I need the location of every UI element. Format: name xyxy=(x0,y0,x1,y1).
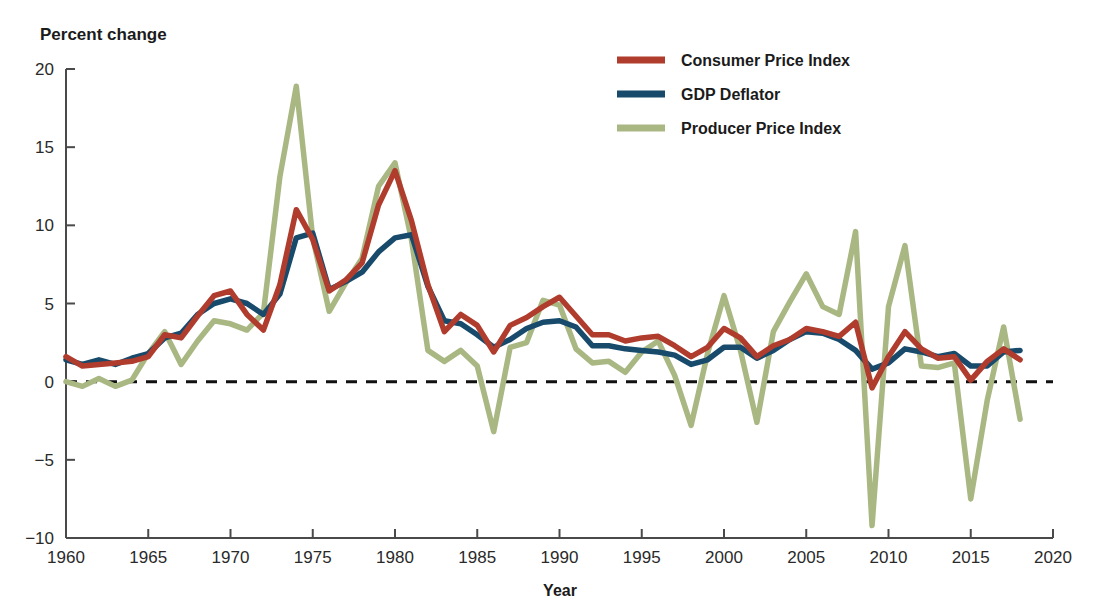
x-tick-label: 2020 xyxy=(1034,548,1072,567)
chart-container: Percent change 20151050−5−10 19601965197… xyxy=(0,0,1096,616)
y-tick-label: 5 xyxy=(45,295,54,314)
x-tick-label: 1980 xyxy=(376,548,414,567)
x-axis-ticks: 1960196519701975198019851990199520002005… xyxy=(47,529,1072,567)
x-tick-label: 1995 xyxy=(623,548,661,567)
y-tick-label: 10 xyxy=(35,216,54,235)
y-tick-label: −5 xyxy=(35,451,54,470)
y-tick-label: 15 xyxy=(35,138,54,157)
x-tick-label: 1970 xyxy=(212,548,250,567)
y-tick-label: 0 xyxy=(45,373,54,392)
chart-legend: Consumer Price IndexGDP DeflatorProducer… xyxy=(617,52,850,137)
x-tick-label: 1965 xyxy=(129,548,167,567)
x-tick-label: 2015 xyxy=(952,548,990,567)
x-axis-title: Year xyxy=(543,582,577,599)
legend-label: GDP Deflator xyxy=(681,86,780,103)
y-axis-ticks: 20151050−5−10 xyxy=(25,60,75,548)
x-tick-label: 2005 xyxy=(787,548,825,567)
y-axis-title: Percent change xyxy=(40,25,167,44)
x-tick-label: 1975 xyxy=(294,548,332,567)
x-tick-label: 1985 xyxy=(458,548,496,567)
legend-label: Producer Price Index xyxy=(681,120,841,137)
y-tick-label: 20 xyxy=(35,60,54,79)
data-series-group xyxy=(66,86,1020,525)
series-line-consumer-price-index xyxy=(66,171,1020,388)
x-tick-label: 1990 xyxy=(541,548,579,567)
x-tick-label: 1960 xyxy=(47,548,85,567)
x-tick-label: 2010 xyxy=(870,548,908,567)
legend-label: Consumer Price Index xyxy=(681,52,850,69)
y-tick-label: −10 xyxy=(25,529,54,548)
x-tick-label: 2000 xyxy=(705,548,743,567)
line-chart: Percent change 20151050−5−10 19601965197… xyxy=(0,0,1096,616)
